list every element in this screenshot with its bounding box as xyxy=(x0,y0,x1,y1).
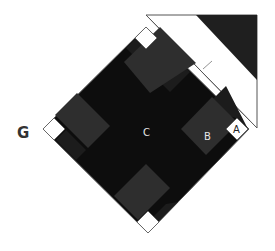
label-a: A xyxy=(233,124,240,135)
label-b: B xyxy=(204,131,211,142)
figure-letter: G xyxy=(17,124,29,142)
quilt-block-diagram: G C B A xyxy=(0,0,275,251)
label-c: C xyxy=(143,127,150,138)
